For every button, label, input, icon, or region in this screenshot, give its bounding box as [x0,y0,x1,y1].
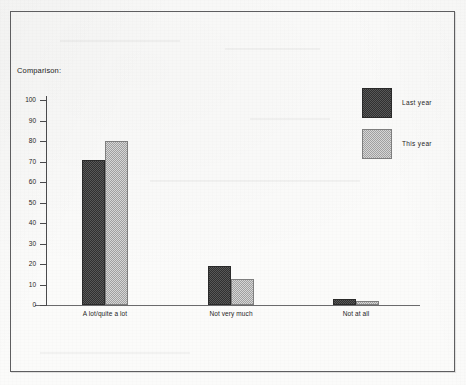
bar-last-year-a-lot-quite-a-lot[interactable] [82,160,105,306]
legend-swatch-this-year [362,129,392,159]
legend-label-last-year: Last year [402,99,432,106]
x-axis-label-not-at-all: Not at all [311,310,401,317]
bar-chart: Comparison: 100 90 80 70 60 50 40 [0,0,466,385]
legend-swatch-last-year [362,88,392,118]
x-axis-label-a-lot-quite-a-lot: A lot/quite a lot [60,310,150,317]
x-axis-label-not-very-much: Not very much [186,310,276,317]
y-tick-mark [40,305,47,306]
bar-this-year-not-at-all[interactable] [356,301,379,305]
x-axis-line [35,305,420,306]
bar-last-year-not-very-much[interactable] [208,266,231,305]
bar-this-year-not-very-much[interactable] [231,279,254,306]
bar-this-year-a-lot-quite-a-lot[interactable] [105,141,128,305]
legend-label-this-year: This year [402,140,432,147]
bar-last-year-not-at-all[interactable] [333,299,356,305]
bar-area [0,0,466,305]
page-background: Comparison: 100 90 80 70 60 50 40 [0,0,466,385]
